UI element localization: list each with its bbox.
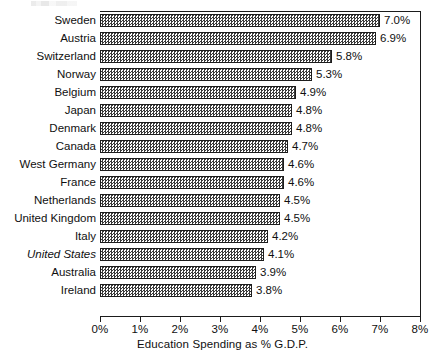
bar-row: Japan4.8% [0,103,445,121]
bar-row: Denmark4.8% [0,121,445,139]
bar-value-label: 4.7% [292,139,318,154]
category-label: Australia [0,265,96,280]
x-axis-tick-label: 3% [200,322,240,336]
bar-row: West Germany4.6% [0,157,445,175]
category-label: United Kingdom [0,211,96,226]
bar-row: Ireland3.8% [0,283,445,301]
category-label: Denmark [0,121,96,136]
bar [100,248,264,261]
bar [100,284,252,297]
category-label: Italy [0,229,96,244]
bar-value-label: 3.9% [260,265,286,280]
bar [100,68,312,81]
bar-row: United States4.1% [0,247,445,265]
category-label: Austria [0,31,96,46]
category-label: Netherlands [0,193,96,208]
bar [100,194,280,207]
bar [100,212,280,225]
bar-row: Italy4.2% [0,229,445,247]
x-axis-tick-label: 5% [280,322,320,336]
category-label: West Germany [0,157,96,172]
bar-row: Australia3.9% [0,265,445,283]
bar-row: Sweden7.0% [0,13,445,31]
bar [100,140,288,153]
bar-rows: Sweden7.0%Austria6.9%Switzerland5.8%Norw… [0,13,445,301]
bar [100,14,380,27]
bar-value-label: 5.3% [316,67,342,82]
bar [100,104,292,117]
x-axis-tick-label: 0% [80,322,120,336]
bar-value-label: 4.8% [296,103,322,118]
category-label: United States [0,247,96,262]
bar-value-label: 6.9% [380,31,406,46]
bar-value-label: 3.8% [256,283,282,298]
x-axis-tick-label: 1% [120,322,160,336]
x-axis-title: Education Spending as % G.D.P. [0,338,445,350]
x-axis-tick-label: 7% [360,322,400,336]
category-label: Norway [0,67,96,82]
bar-row: France4.6% [0,175,445,193]
bar-value-label: 4.1% [268,247,294,262]
bar-row: Netherlands4.5% [0,193,445,211]
x-axis-tick-label: 4% [240,322,280,336]
category-label: Sweden [0,13,96,28]
bar-value-label: 4.9% [300,85,326,100]
category-label: Switzerland [0,49,96,64]
bar-row: United Kingdom4.5% [0,211,445,229]
x-axis-tick-label: 2% [160,322,200,336]
bar-row: Norway5.3% [0,67,445,85]
bar-row: Austria6.9% [0,31,445,49]
bar-value-label: 4.5% [284,193,310,208]
bar-row: Belgium4.9% [0,85,445,103]
bar-value-label: 4.8% [296,121,322,136]
bar [100,158,284,171]
bar [100,122,292,135]
bar [100,50,332,63]
category-label: Ireland [0,283,96,298]
bar-row: Switzerland5.8% [0,49,445,67]
bar [100,176,284,189]
bar [100,32,376,45]
x-axis-tick-label: 6% [320,322,360,336]
category-label: Japan [0,103,96,118]
education-spending-bar-chart: Sweden7.0%Austria6.9%Switzerland5.8%Norw… [0,0,445,359]
category-label: France [0,175,96,190]
bar-value-label: 7.0% [384,13,410,28]
bar-value-label: 4.2% [272,229,298,244]
x-axis-tick-labels: 0%1%2%3%4%5%6%7%8% [0,322,445,338]
bar-value-label: 5.8% [336,49,362,64]
bar-value-label: 4.6% [288,175,314,190]
bar-row: Canada4.7% [0,139,445,157]
x-axis-tick-label: 8% [400,322,440,336]
category-label: Canada [0,139,96,154]
plot-border-top [100,11,421,12]
bar [100,86,296,99]
bar-value-label: 4.6% [288,157,314,172]
bar [100,266,256,279]
bar-value-label: 4.5% [284,211,310,226]
bar [100,230,268,243]
category-label: Belgium [0,85,96,100]
